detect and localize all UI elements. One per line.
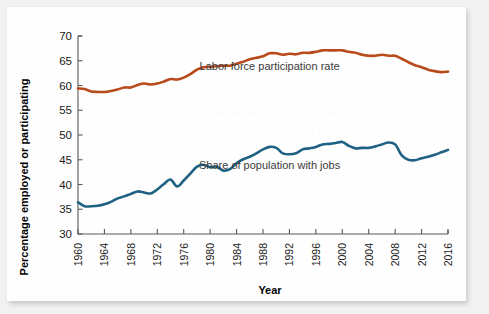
y-axis-title: Percentage employed or participating bbox=[18, 79, 30, 276]
x-axis-ticks: 1960196419681972197619801984198819921996… bbox=[72, 229, 454, 266]
x-tick-label: 1992 bbox=[283, 243, 295, 267]
x-tick-label: 1960 bbox=[72, 243, 84, 267]
x-tick-label: 1976 bbox=[178, 243, 190, 267]
y-tick-label: 45 bbox=[59, 154, 72, 166]
y-tick-label: 60 bbox=[59, 80, 72, 92]
line-chart: 303540455055606570 196019641968197219761… bbox=[7, 7, 466, 301]
data-series-group bbox=[78, 50, 448, 206]
x-tick-label: 2016 bbox=[442, 243, 454, 267]
series-labels: Labor force participation rateShare of p… bbox=[199, 60, 341, 171]
x-tick-label: 1972 bbox=[151, 243, 163, 267]
x-tick-label: 2012 bbox=[416, 243, 428, 267]
y-tick-label: 30 bbox=[59, 228, 72, 240]
x-tick-label: 1996 bbox=[310, 243, 322, 267]
x-tick-label: 2004 bbox=[363, 243, 375, 267]
y-tick-label: 40 bbox=[59, 179, 72, 191]
x-tick-label: 1988 bbox=[257, 243, 269, 267]
y-tick-label: 50 bbox=[59, 129, 72, 141]
y-tick-label: 65 bbox=[59, 55, 72, 67]
y-tick-label: 70 bbox=[59, 30, 72, 42]
x-tick-label: 2008 bbox=[389, 243, 401, 267]
y-axis-ticks: 303540455055606570 bbox=[59, 30, 82, 240]
figure-panel: the share of adults who are either worki… bbox=[7, 7, 466, 301]
x-tick-label: 2000 bbox=[336, 243, 348, 267]
series-label: Labor force participation rate bbox=[200, 60, 340, 72]
y-tick-label: 55 bbox=[59, 104, 72, 116]
x-axis-title: Year bbox=[258, 284, 282, 296]
x-tick-label: 1968 bbox=[125, 243, 137, 267]
y-tick-label: 35 bbox=[59, 203, 72, 215]
x-tick-label: 1984 bbox=[231, 243, 243, 267]
x-tick-label: 1964 bbox=[98, 243, 110, 267]
x-tick-label: 1980 bbox=[204, 243, 216, 267]
series-label: Share of population with jobs bbox=[199, 159, 341, 171]
data-line-share-of-population-with-jobs bbox=[78, 142, 448, 207]
